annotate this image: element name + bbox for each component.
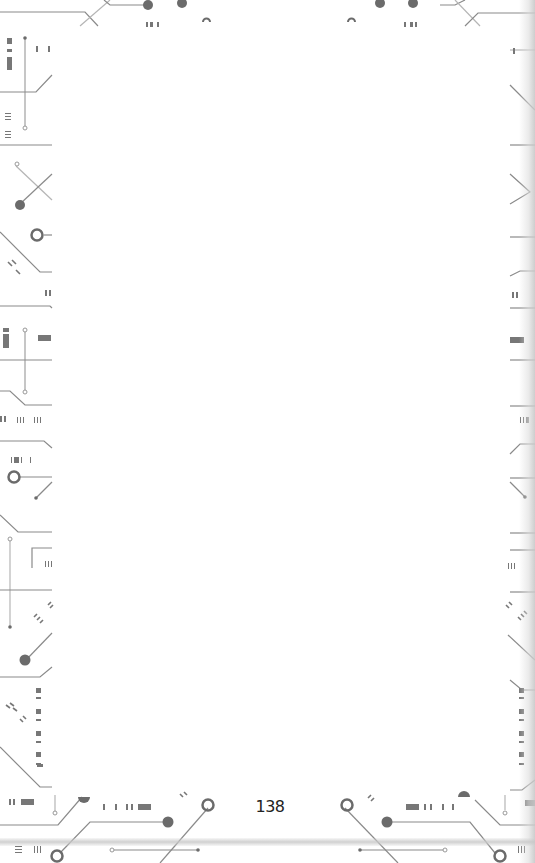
- page-content-area: [60, 40, 470, 770]
- book-page: 138: [0, 0, 535, 863]
- page-gutter-shadow: [519, 0, 535, 863]
- page-fold-shadow: [0, 838, 535, 846]
- page-number: 138: [250, 797, 290, 816]
